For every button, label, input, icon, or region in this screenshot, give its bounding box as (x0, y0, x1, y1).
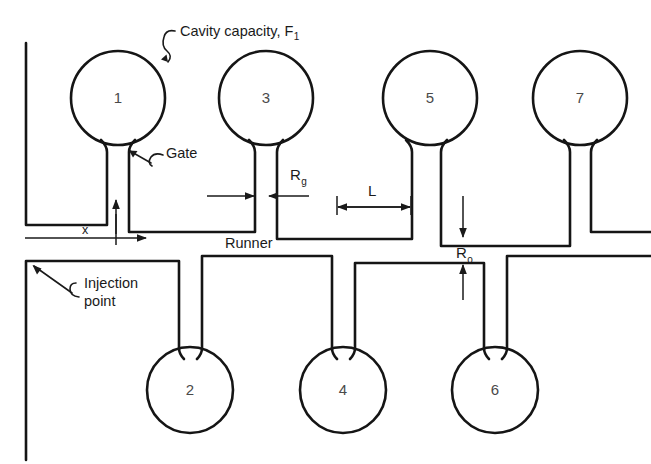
injection-point-arrowhead (33, 265, 42, 275)
lower-gate-channel-4-to-6 (350, 263, 489, 359)
lower-gate-channel-6-right (502, 256, 651, 359)
cavity-capacity-subscript: 1 (294, 31, 300, 42)
x-dimension-label: x (82, 223, 89, 237)
runner-label: Runner (225, 235, 273, 251)
cavity-number-2: 2 (186, 381, 194, 398)
cavity-capacity-label: Cavity capacity, F1 (180, 23, 300, 42)
cavity-number-3: 3 (262, 89, 270, 106)
rg-subscript: g (301, 176, 307, 187)
diagram-canvas: 1 3 5 7 2 4 6 (0, 0, 651, 464)
ro-top-subscript: o (467, 254, 473, 265)
gate-channel-5-to-7 (441, 140, 570, 246)
gate-label: Gate (166, 145, 197, 161)
gate-channel-3-to-5 (277, 140, 412, 239)
rg-dimension-label: Rg (290, 166, 307, 187)
cavity-number-6: 6 (491, 381, 499, 398)
cavity-number-1: 1 (114, 89, 122, 106)
cavity-capacity-leader-arrowhead (161, 55, 168, 63)
cavity-number-7: 7 (576, 89, 584, 106)
l-dimension-label: L (368, 182, 376, 199)
injection-point-label-line2: point (84, 293, 115, 309)
upper-runner-left-wall (26, 43, 107, 225)
injection-point-label-line1: Injection (84, 275, 138, 291)
lower-gate-channel-2-to-4 (197, 256, 337, 359)
cavity-number-5: 5 (426, 89, 434, 106)
gate-channel-7-right (591, 140, 651, 232)
mold-runner-diagram: 1 3 5 7 2 4 6 (0, 0, 651, 464)
gate-leader-line (149, 154, 163, 166)
injection-point-leader-line (70, 283, 79, 297)
cavity-number-4: 4 (339, 381, 347, 398)
